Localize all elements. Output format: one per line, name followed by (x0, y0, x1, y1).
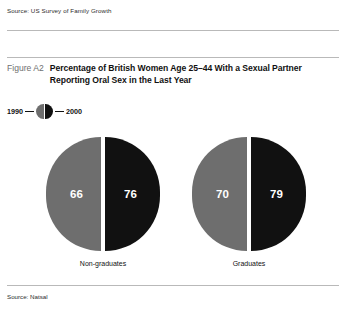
divider-top (7, 30, 339, 31)
bottom-source-note: Source: Natsal (7, 293, 48, 300)
legend-label-2000: 2000 (66, 107, 82, 116)
figure-title-line-1: Percentage of British Women Age 25–44 Wi… (50, 63, 302, 73)
legend-swatch-1990 (36, 104, 44, 119)
category-label-non-graduates: Non-graduates (43, 260, 163, 267)
chart-legend: 1990 2000 (7, 103, 82, 119)
legend-swatch-2000 (45, 104, 53, 119)
pie-half-1990-non-graduates: 66 (46, 137, 101, 251)
chart-plot-area: 66 76 Non-graduates 70 79 Graduates (0, 130, 346, 280)
figure-title-line-2: Reporting Oral Sex in the Last Year (50, 74, 302, 86)
pie-chart-graduates: 70 79 (192, 137, 306, 251)
pie-value-2000-non-graduates: 76 (124, 188, 137, 200)
pie-group-non-graduates: 66 76 Non-graduates (43, 130, 163, 280)
divider-second (7, 57, 339, 58)
divider-bottom (7, 285, 339, 286)
pie-chart-non-graduates: 66 76 (46, 137, 160, 251)
pie-value-1990-non-graduates: 66 (70, 188, 83, 200)
figure-title: Percentage of British Women Age 25–44 Wi… (50, 62, 302, 87)
top-source-note: Source: US Survey of Family Growth (7, 7, 112, 14)
legend-leader-left (25, 111, 34, 112)
category-label-graduates: Graduates (189, 260, 309, 267)
figure-heading: Figure A2 Percentage of British Women Ag… (7, 62, 339, 87)
pie-group-graduates: 70 79 Graduates (189, 130, 309, 280)
pie-half-2000-graduates: 79 (251, 137, 306, 251)
legend-label-1990: 1990 (7, 107, 23, 116)
pie-value-1990-graduates: 70 (216, 188, 229, 200)
pie-value-2000-graduates: 79 (270, 188, 283, 200)
legend-halfcircle-icon (36, 104, 53, 119)
pie-half-2000-non-graduates: 76 (105, 137, 160, 251)
legend-leader-right (55, 111, 64, 112)
pie-half-1990-graduates: 70 (192, 137, 247, 251)
figure-number: Figure A2 (7, 62, 50, 74)
